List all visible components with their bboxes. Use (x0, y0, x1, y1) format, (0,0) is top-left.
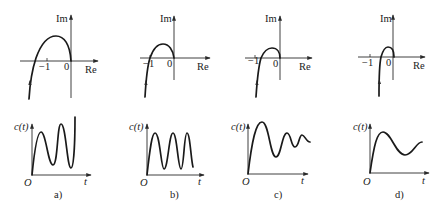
nyquist-plot-a: Im Re −1 0 (20, 13, 98, 99)
origin-label: O (24, 177, 32, 188)
origin-label: O (140, 177, 148, 188)
nyquist-step-response-figure: Im Re −1 0 c(t) t O a) Im Re −1 0 (0, 0, 443, 214)
t-label: t (198, 176, 202, 187)
nyquist-plot-c: Im Re −1 0 (245, 13, 312, 97)
t-label: t (422, 175, 426, 186)
re-label: Re (299, 61, 311, 72)
caption-a: a) (54, 189, 63, 201)
tick-zero-label: 0 (64, 61, 69, 72)
step-response-d: c(t) t O (353, 121, 429, 187)
origin-label: O (363, 176, 371, 187)
origin-label: O (242, 176, 250, 187)
step-response-b: c(t) t O (129, 121, 204, 188)
tick-zero-label: 0 (273, 58, 278, 69)
im-label: Im (265, 13, 277, 24)
im-label: Im (380, 13, 392, 24)
t-label: t (301, 175, 305, 186)
tick-minus-one-label: −1 (362, 57, 373, 68)
ct-label: c(t) (14, 121, 29, 133)
step-curve (32, 117, 75, 175)
ct-label: c(t) (353, 121, 368, 133)
nyquist-plot-d: Im Re −1 0 (358, 13, 425, 96)
caption-c: c) (274, 189, 283, 201)
re-label: Re (413, 60, 425, 71)
nyquist-curve (145, 44, 174, 97)
panel-a: Im Re −1 0 c(t) t O a) (14, 13, 98, 201)
re-label: Re (85, 64, 97, 75)
tick-minus-one-label: −1 (39, 61, 50, 72)
im-label: Im (56, 13, 68, 24)
panel-b: Im Re −1 0 c(t) t O b) (129, 13, 210, 201)
panel-d: Im Re −1 0 c(t) t O d) (353, 13, 429, 201)
im-label: Im (160, 13, 172, 24)
tick-minus-one-label: −1 (248, 55, 259, 66)
nyquist-plot-b: Im Re −1 0 (140, 13, 210, 97)
step-response-c: c(t) t O (231, 121, 310, 187)
caption-b: b) (170, 189, 179, 201)
step-curve (248, 122, 310, 174)
ct-label: c(t) (129, 121, 144, 133)
step-response-a: c(t) t O (14, 117, 91, 188)
direction-arrow-icon (378, 79, 381, 84)
nyquist-curve (379, 47, 394, 96)
caption-d: d) (395, 189, 404, 201)
tick-zero-label: 0 (386, 57, 391, 68)
tick-zero-label: 0 (167, 58, 172, 69)
t-label: t (84, 176, 88, 187)
step-curve (370, 132, 422, 173)
panel-c: Im Re −1 0 c(t) t O c) (231, 13, 312, 201)
re-label: Re (197, 61, 209, 72)
step-curve (147, 133, 193, 175)
nyquist-curve (256, 48, 280, 97)
ct-label: c(t) (231, 121, 246, 133)
